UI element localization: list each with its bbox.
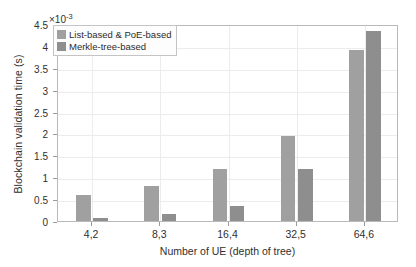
- x-axis-tick-label: 4,2: [84, 228, 99, 240]
- gridline-horizontal: [58, 70, 397, 71]
- bar: [281, 136, 296, 221]
- y-axis-tick: [53, 200, 57, 201]
- x-axis-tick: [159, 222, 160, 226]
- gridline-horizontal: [58, 179, 397, 180]
- x-axis-tick-label: 32,5: [285, 228, 305, 240]
- y-axis-tick-label: 0.5: [34, 195, 48, 206]
- bar: [298, 169, 313, 222]
- bar: [93, 218, 108, 222]
- bar: [349, 50, 364, 221]
- y-axis-tick-label: 2: [42, 129, 48, 140]
- gridline-horizontal: [58, 114, 397, 115]
- y-axis-multiplier-exponent: -3: [66, 12, 73, 21]
- y-axis-tick-label: 0: [42, 217, 48, 228]
- y-axis-tick: [53, 156, 57, 157]
- bar: [366, 31, 381, 221]
- y-axis-multiplier: ×10-3: [49, 12, 73, 25]
- x-axis-tick-label: 8,3: [152, 228, 167, 240]
- y-axis-tick: [53, 222, 57, 223]
- x-axis-tick: [228, 222, 229, 226]
- legend-swatch-icon: [57, 30, 66, 39]
- y-axis-tick-label: 4.5: [34, 20, 48, 31]
- gridline-horizontal: [58, 135, 397, 136]
- gridline-vertical: [229, 26, 230, 221]
- y-axis-tick-label: 3: [42, 85, 48, 96]
- y-axis-tick-label: 1: [42, 173, 48, 184]
- y-axis-multiplier-base: ×10: [49, 14, 66, 25]
- legend-swatch-icon: [57, 42, 66, 51]
- x-axis-label: Number of UE (depth of tree): [57, 245, 398, 257]
- y-axis-tick: [53, 91, 57, 92]
- legend-item: List-based & PoE-based: [57, 28, 171, 40]
- gridline-horizontal: [58, 92, 397, 93]
- y-axis-tick: [53, 178, 57, 179]
- x-axis-tick-label: 16,4: [217, 228, 237, 240]
- bar: [230, 206, 245, 221]
- bar: [162, 214, 177, 221]
- y-axis-tick-label: 4: [42, 41, 48, 52]
- x-axis-tick: [296, 222, 297, 226]
- legend-item: Merkle-tree-based: [57, 40, 171, 52]
- y-axis-tick: [53, 134, 57, 135]
- y-axis-tick-label: 1.5: [34, 151, 48, 162]
- bar: [213, 169, 228, 222]
- y-axis-label: Blockchain validation time (s): [12, 24, 24, 224]
- y-axis-tick-label: 3.5: [34, 63, 48, 74]
- gridline-horizontal: [58, 201, 397, 202]
- y-axis-tick: [53, 69, 57, 70]
- legend-label: Merkle-tree-based: [69, 41, 146, 52]
- x-axis-tick: [91, 222, 92, 226]
- x-axis-tick-label: 64,6: [354, 228, 374, 240]
- x-axis-tick: [364, 222, 365, 226]
- y-axis-tick-label: 2.5: [34, 107, 48, 118]
- gridline-horizontal: [58, 157, 397, 158]
- y-axis-tick: [53, 113, 57, 114]
- bar: [144, 186, 159, 221]
- chart-figure: Blockchain validation time (s) ×10-3 00.…: [0, 0, 416, 267]
- bar: [76, 195, 91, 221]
- chart-legend: List-based & PoE-based Merkle-tree-based: [53, 25, 177, 56]
- legend-label: List-based & PoE-based: [69, 29, 171, 40]
